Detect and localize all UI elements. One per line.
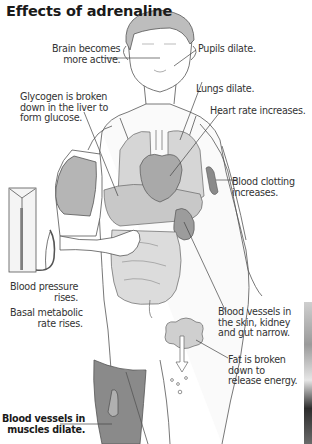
blood-pressure-gauge: [9, 188, 55, 272]
label-glycogen: Glycogen is broken down in the liver to …: [20, 92, 108, 124]
label-vessels-skin: Blood vessels in the skin, kidney and gu…: [218, 307, 291, 339]
energy-bubbles: [171, 377, 188, 394]
page-title: Effects of adrenaline: [6, 3, 172, 19]
label-pupils: Pupils dilate.: [198, 44, 256, 55]
label-fat: Fat is broken down to release energy.: [228, 355, 297, 387]
head: [123, 10, 196, 92]
label-bmr: Basal metabolic rate rises.: [10, 308, 83, 329]
label-vessels-muscles: Blood vessels in muscles dilate.: [2, 414, 85, 435]
label-heart: Heart rate increases.: [210, 106, 306, 117]
label-clotting: Blood clotting increases.: [232, 177, 295, 198]
label-blood-pressure: Blood pressure rises.: [10, 282, 78, 303]
label-brain: Brain becomes more active.: [52, 44, 120, 65]
label-lungs: Lungs dilate.: [196, 84, 254, 95]
adjacent-photo-edge: [304, 302, 312, 444]
legs: [94, 360, 170, 444]
